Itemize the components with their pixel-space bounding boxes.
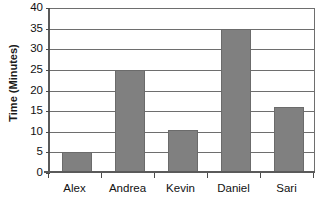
bar-daniel <box>221 29 251 173</box>
x-axis-tick-mark <box>313 173 314 178</box>
x-axis-label-kevin: Kevin <box>166 181 195 195</box>
x-axis-tick-mark <box>154 173 155 178</box>
bar-alex <box>62 152 92 173</box>
bar-slot <box>209 8 262 173</box>
bar-chart: Time (Minutes) 0510152025303540 AlexAndr… <box>0 0 322 204</box>
bar-sari <box>274 107 304 173</box>
x-axis-tick-mark <box>48 173 49 178</box>
x-axis-tick-marks <box>48 173 313 179</box>
bar-slot <box>262 8 315 173</box>
bar-andrea <box>115 70 145 173</box>
bar-slot <box>50 8 103 173</box>
y-axis-tick-label: 10 <box>16 126 43 137</box>
x-axis-category-labels: AlexAndreaKevinDanielSari <box>48 181 313 201</box>
y-axis-tick-labels: 0510152025303540 <box>16 8 43 173</box>
y-axis-tick-label: 15 <box>16 105 43 116</box>
y-axis-tick-label: 5 <box>16 146 43 157</box>
x-axis-label-andrea: Andrea <box>109 181 146 195</box>
y-axis-tick-label: 30 <box>16 43 43 54</box>
x-axis-label-daniel: Daniel <box>217 181 250 195</box>
x-axis-label-sari: Sari <box>276 181 296 195</box>
bar-slot <box>156 8 209 173</box>
bars-layer <box>50 8 315 173</box>
x-axis-label-alex: Alex <box>63 181 85 195</box>
y-axis-tick-label: 35 <box>16 23 43 34</box>
y-axis-tick-label: 20 <box>16 85 43 96</box>
x-axis-tick-mark <box>101 173 102 178</box>
x-axis-tick-mark <box>260 173 261 178</box>
y-axis-tick-label: 0 <box>16 167 43 178</box>
bar-slot <box>103 8 156 173</box>
y-axis-tick-label: 25 <box>16 64 43 75</box>
x-axis-tick-mark <box>207 173 208 178</box>
bar-kevin <box>168 130 198 173</box>
plot-area <box>48 8 315 173</box>
y-axis-tick-label: 40 <box>16 2 43 13</box>
